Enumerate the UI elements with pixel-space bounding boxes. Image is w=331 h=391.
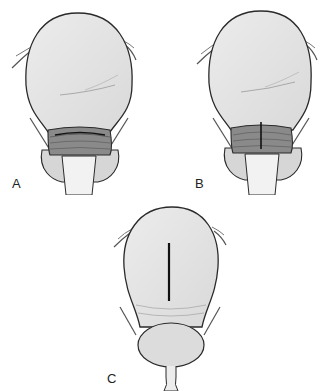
figure-label-c: C xyxy=(107,371,116,386)
figure-b xyxy=(165,0,331,195)
uterus-classical-incision-illustration xyxy=(80,195,260,391)
figure-c xyxy=(80,195,260,391)
figure-label-b: B xyxy=(195,176,204,191)
uterus-low-vertical-incision-illustration xyxy=(165,0,331,195)
figure-a xyxy=(0,0,165,195)
uterus-transverse-incision-illustration xyxy=(0,0,165,195)
figure-label-a: A xyxy=(12,176,21,191)
